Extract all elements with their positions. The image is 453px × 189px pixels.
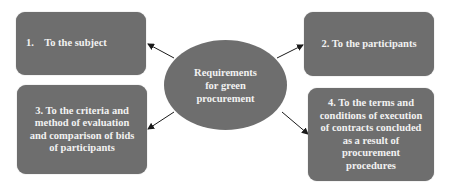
arrow-to-participants	[277, 45, 303, 58]
node-terms-label: 4. To the terms and conditions of execut…	[316, 97, 426, 172]
node-participants-label: 2. To the participants	[321, 38, 416, 51]
center-line-3: procurement	[194, 92, 257, 105]
center-line-2: for green	[194, 79, 257, 92]
arrow-to-criteria	[148, 112, 174, 129]
node-participants: 2. To the participants	[304, 12, 434, 76]
arrow-to-subject	[148, 44, 174, 58]
center-node-requirements: Requirements for green procurement	[164, 40, 287, 130]
node-terms: 4. To the terms and conditions of execut…	[308, 88, 434, 181]
node-subject: 1. To the subject	[16, 12, 146, 75]
node-criteria: 3. To the criteria and method of evaluat…	[17, 85, 147, 174]
node-criteria-label: 3. To the criteria and method of evaluat…	[25, 105, 139, 155]
arrow-to-terms	[282, 112, 308, 134]
center-line-1: Requirements	[194, 66, 257, 79]
node-subject-label: 1. To the subject	[26, 37, 107, 50]
